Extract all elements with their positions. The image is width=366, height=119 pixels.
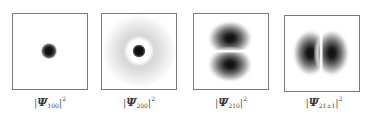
subscript: 100 [47,102,58,109]
psi-symbol: Ψ [218,96,228,109]
density-plot-psi-21pm1 [285,16,359,91]
superscript: 2 [62,95,66,102]
density-plot-psi-100 [13,14,87,89]
superscript: 2 [151,95,155,102]
panel-psi-100 [12,13,88,90]
label-psi-100: |Ψ100|2 [5,95,95,109]
density-plot-psi-200 [102,14,176,89]
superscript: 2 [339,95,343,102]
subscript: 210 [228,102,239,109]
subscript: 200 [136,102,147,109]
psi-symbol: Ψ [37,96,47,109]
label-psi-210: |Ψ210|2 [186,95,276,109]
psi-symbol: Ψ [309,96,319,109]
panel-psi-200 [101,13,177,90]
label-psi-21pm1: |Ψ21±1|2 [279,95,366,109]
psi-symbol: Ψ [126,96,136,109]
label-psi-200: |Ψ200|2 [94,95,184,109]
panel-psi-21pm1 [284,15,360,92]
subscript: 21±1 [319,102,335,109]
panel-psi-210 [193,13,269,90]
superscript: 2 [243,95,247,102]
density-plot-psi-210 [194,14,268,89]
